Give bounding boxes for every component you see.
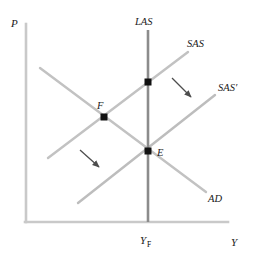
point-e	[145, 148, 152, 155]
output-axis-label: Y	[231, 236, 239, 248]
sas-prime-curve-label: SAS′	[218, 82, 238, 93]
point-sas-las	[145, 79, 152, 86]
sas-curve-label: SAS	[187, 38, 205, 49]
y-full-employment-tick-label: Y F	[140, 234, 151, 249]
y-full-employment-subscript: F	[147, 240, 151, 249]
point-e-label: E	[156, 147, 164, 158]
point-f-label: F	[96, 100, 104, 111]
asad-diagram: P Y LAS SAS SAS′ AD F E Y F	[0, 0, 256, 259]
sas-curve	[48, 52, 188, 158]
shift-arrow-left	[80, 150, 99, 167]
las-curve-label: LAS	[134, 16, 153, 27]
point-f	[101, 114, 108, 121]
asad-svg: P Y LAS SAS SAS′ AD F E Y F	[0, 0, 256, 259]
ad-curve-label: AD	[207, 193, 222, 204]
price-axis-label: P	[10, 17, 18, 29]
shift-arrow-right	[172, 78, 191, 97]
